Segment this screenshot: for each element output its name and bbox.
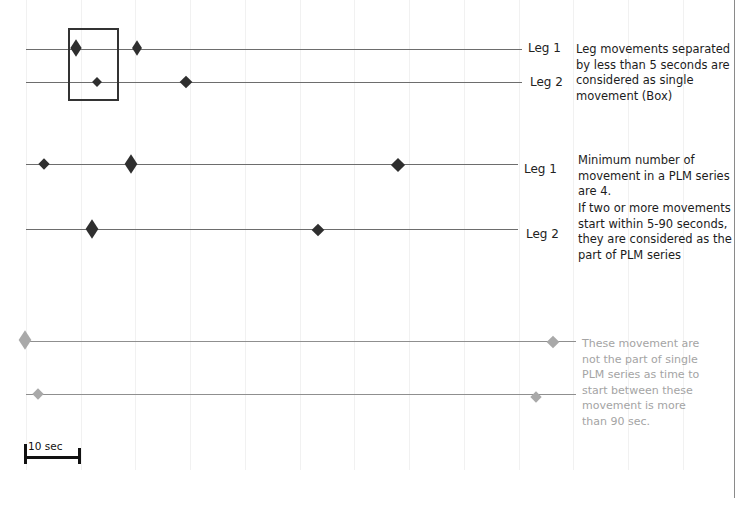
leg1-track [26, 164, 518, 165]
grid-line [245, 0, 246, 470]
leg2-label: Leg 2 [526, 227, 559, 241]
grid-line [190, 0, 191, 470]
grid-line [135, 0, 136, 470]
movement-marker-icon [391, 158, 405, 172]
leg2-track [26, 394, 576, 395]
movement-marker-icon [32, 388, 43, 399]
scale-bar-left-tick [24, 444, 27, 464]
movement-marker-icon [86, 219, 99, 239]
single-movement-box [68, 28, 119, 101]
grid-line [354, 0, 355, 470]
grid-line [519, 0, 520, 470]
grid-line [573, 0, 574, 470]
leg1-track [26, 341, 576, 342]
movement-marker-icon [547, 336, 560, 349]
movement-marker-icon [312, 224, 325, 237]
grid-line [464, 0, 465, 470]
leg2-track [26, 229, 518, 230]
plm-diagram: Leg 1 Leg 2 Leg movements separated by l… [0, 0, 756, 510]
single-movement-note: Leg movements separated by less than 5 s… [576, 42, 736, 105]
plm-minimum-note: Minimum number of movement in a PLM seri… [578, 153, 736, 200]
grid-line [300, 0, 301, 470]
leg1-label: Leg 1 [528, 41, 561, 55]
leg2-label: Leg 2 [530, 75, 563, 89]
scale-bar-label: 10 sec [28, 440, 62, 452]
grid-line [26, 0, 27, 470]
movement-marker-icon [132, 40, 142, 55]
not-plm-note: These movement are not the part of singl… [582, 336, 707, 430]
leg1-label: Leg 1 [524, 162, 557, 176]
scale-bar-line [24, 456, 81, 459]
scale-bar-right-tick [78, 448, 81, 464]
movement-marker-icon [38, 158, 49, 169]
plm-interval-note: If two or more movements start within 5-… [578, 201, 736, 264]
grid-line [409, 0, 410, 470]
movement-marker-icon [19, 330, 32, 350]
